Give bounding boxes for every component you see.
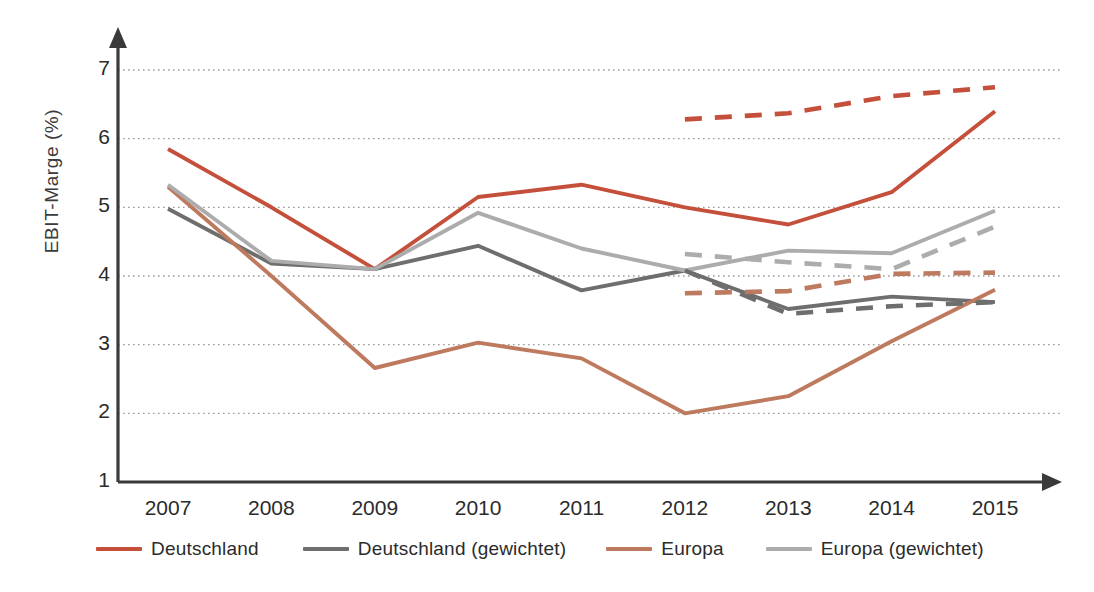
legend-swatch-icon [766, 547, 812, 551]
x-tick-2011: 2011 [537, 496, 627, 520]
legend-label: Deutschland [151, 538, 259, 560]
legend-item-deutschland[interactable]: Deutschland [96, 538, 259, 560]
legend-item-europa[interactable]: Europa [606, 538, 723, 560]
legend-item-deutschland-gewichtet[interactable]: Deutschland (gewichtet) [303, 538, 566, 560]
legend-swatch-icon [303, 547, 349, 551]
legend-label: Europa (gewichtet) [821, 538, 984, 560]
legend-label: Europa [661, 538, 723, 560]
series-line-deutschland [168, 111, 995, 269]
legend-label: Deutschland (gewichtet) [358, 538, 566, 560]
y-axis-arrowhead [109, 27, 127, 48]
x-tick-2009: 2009 [330, 496, 420, 520]
x-axis-tick-labels: 200720082009201020112012201320142015 [0, 496, 1094, 530]
legend-swatch-icon [96, 547, 142, 551]
legend-swatch-icon [606, 547, 652, 551]
chart-legend: DeutschlandDeutschland (gewichtet)Europa… [96, 538, 1036, 560]
x-tick-2012: 2012 [640, 496, 730, 520]
x-tick-2013: 2013 [743, 496, 833, 520]
x-tick-2008: 2008 [226, 496, 316, 520]
ebit-marge-line-chart: EBIT-Marge (%) 7654321 20072008200920102… [0, 0, 1094, 592]
x-axis-arrowhead [1042, 473, 1062, 491]
legend-item-europa-gewichtet[interactable]: Europa (gewichtet) [766, 538, 984, 560]
x-tick-2014: 2014 [847, 496, 937, 520]
x-tick-2015: 2015 [950, 496, 1040, 520]
x-tick-2007: 2007 [123, 496, 213, 520]
x-tick-2010: 2010 [433, 496, 523, 520]
series-line-deutschland-prognose [685, 87, 995, 119]
